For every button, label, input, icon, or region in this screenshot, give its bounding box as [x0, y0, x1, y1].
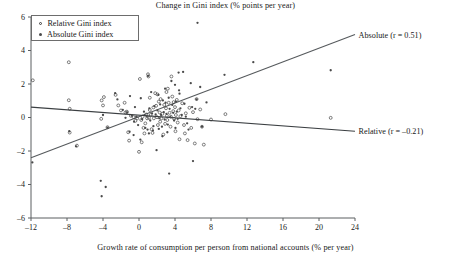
data-point [106, 126, 108, 128]
data-point [184, 112, 187, 115]
data-point [182, 71, 184, 73]
data-point [135, 116, 137, 118]
data-point [128, 131, 130, 133]
data-point [176, 121, 179, 124]
data-point [151, 131, 154, 134]
data-point [178, 89, 180, 91]
chart-legend: Relative Gini index Absolute Gini index [31, 15, 139, 41]
data-point [177, 71, 179, 73]
y-axis-tick-label: 6 [21, 13, 25, 22]
data-point [205, 101, 207, 103]
data-point [202, 143, 205, 146]
data-point [102, 114, 104, 116]
data-point [162, 99, 164, 101]
x-axis-tick-label: 0 [137, 223, 141, 232]
data-point [190, 82, 192, 84]
trendline-absolute [31, 35, 355, 158]
data-point [155, 113, 157, 115]
data-point [129, 95, 131, 97]
data-point [140, 141, 143, 144]
data-point [174, 114, 177, 117]
data-point [173, 119, 175, 121]
data-point [190, 126, 193, 129]
data-point [148, 96, 151, 99]
data-point [166, 87, 169, 90]
data-point [155, 149, 157, 151]
data-point [178, 93, 180, 95]
data-point [199, 108, 202, 111]
data-point [68, 130, 70, 132]
data-point [171, 95, 174, 98]
data-point [185, 116, 187, 118]
data-point [100, 117, 103, 120]
data-point [133, 121, 135, 123]
data-point [188, 106, 191, 109]
y-axis-tick-label: 4 [21, 46, 25, 55]
x-axis-tick-label: 20 [315, 223, 323, 232]
data-point [134, 106, 136, 108]
data-point [178, 138, 181, 141]
data-point [183, 132, 186, 135]
x-axis-tick-label: 8 [209, 223, 213, 232]
data-point [158, 117, 160, 119]
legend-item-relative: Relative Gini index [39, 18, 112, 29]
data-point [165, 91, 168, 94]
data-point [159, 103, 161, 105]
data-point [152, 129, 154, 131]
data-point [201, 126, 203, 128]
data-point [166, 119, 169, 122]
data-point [159, 120, 162, 123]
data-point [156, 109, 158, 111]
data-point [168, 172, 170, 174]
data-point [192, 160, 194, 162]
data-point [194, 108, 196, 110]
data-point [144, 127, 146, 129]
chart-figure: Change in Gini index (% points per year)… [0, 0, 451, 263]
y-axis-tick-label: 2 [21, 80, 25, 89]
data-point [117, 104, 120, 107]
data-point [174, 106, 177, 109]
data-point [149, 119, 151, 121]
data-point [169, 125, 172, 128]
data-point [102, 104, 105, 107]
data-point [167, 101, 170, 104]
data-point [141, 118, 143, 120]
x-axis-tick-label: 24 [351, 223, 359, 232]
data-point [174, 130, 177, 133]
data-point [157, 94, 159, 96]
data-point [153, 105, 155, 107]
data-point [152, 125, 154, 127]
x-axis-tick-label: 16 [279, 223, 287, 232]
data-point [163, 111, 165, 113]
data-point [31, 161, 33, 163]
data-point [330, 69, 332, 71]
data-point [105, 186, 107, 188]
data-point [144, 122, 147, 125]
data-point [187, 128, 189, 130]
data-point [143, 132, 146, 135]
data-point [67, 99, 70, 102]
legend-label-absolute: Absolute Gini index [47, 29, 113, 40]
x-axis-tick-label: –8 [62, 223, 71, 232]
data-point [167, 123, 169, 125]
data-point [164, 88, 166, 90]
x-axis-tick-label: –12 [24, 223, 37, 232]
x-axis-tick-label: 12 [243, 223, 251, 232]
data-point [148, 107, 150, 109]
data-point [168, 108, 170, 110]
legend-item-absolute: Absolute Gini index [39, 29, 113, 40]
data-point [179, 107, 181, 109]
data-point [223, 74, 225, 76]
data-point [175, 100, 177, 102]
data-point [193, 142, 196, 145]
data-point [186, 139, 189, 142]
data-point [176, 110, 178, 112]
data-point [168, 111, 171, 114]
data-point [101, 195, 103, 197]
data-point [147, 116, 150, 119]
data-point [131, 114, 133, 116]
data-point [151, 112, 153, 114]
data-point [122, 109, 124, 111]
data-point [126, 111, 128, 113]
x-axis-tick-label: –4 [98, 223, 107, 232]
